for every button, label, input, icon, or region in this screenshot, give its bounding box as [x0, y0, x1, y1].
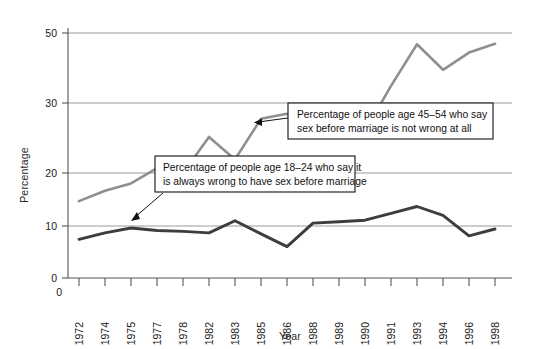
x-origin-label: 0	[56, 286, 62, 298]
x-tick-label-1990: 1990	[359, 322, 371, 346]
annotation-45-54-line1: Percentage of people age 45–54 who say	[297, 109, 488, 120]
annotation-45-54: Percentage of people age 45–54 who say s…	[254, 103, 493, 139]
y-tick-label-20: 20	[45, 167, 57, 179]
x-tick-label-1977: 1977	[151, 322, 163, 346]
x-tick-label-1974: 1974	[99, 322, 111, 346]
x-tick-label-1994: 1994	[437, 322, 449, 346]
x-tick-label-1978: 1978	[177, 322, 189, 346]
x-tick-label-1975: 1975	[125, 322, 137, 346]
y-tick-label-10: 10	[45, 220, 57, 232]
x-tick-label-1989: 1989	[333, 322, 345, 346]
y-tick-label-0: 0	[51, 272, 57, 284]
chart-figure: 50 30 20 10 0 0 Percentage	[0, 0, 534, 349]
x-tick-label-1991: 1991	[385, 322, 397, 346]
x-tick-label-1972: 1972	[73, 322, 85, 346]
x-axis-title: Year	[279, 330, 301, 342]
x-tick-label-1982: 1982	[203, 322, 215, 346]
x-tick-label-1996: 1996	[463, 322, 475, 346]
y-axis-title: Percentage	[18, 147, 30, 203]
x-tick-label-1988: 1988	[307, 322, 319, 346]
y-tick-label-30: 30	[45, 97, 57, 109]
line-chart: 50 30 20 10 0 0 Percentage	[0, 0, 534, 349]
x-tick-label-1983: 1983	[229, 322, 241, 346]
x-tick-label-1985: 1985	[255, 322, 267, 346]
x-tick-label-1998: 1998	[489, 322, 501, 346]
x-tick-label-1993: 1993	[411, 322, 423, 346]
y-tick-label-50: 50	[45, 27, 57, 39]
annotation-45-54-line2: sex before marriage is not wrong at all	[297, 123, 472, 134]
annotation-18-24-line1: Percentage of people age 18–24 who say i…	[163, 162, 361, 173]
annotation-18-24-line2: is always wrong to have sex before marri…	[163, 176, 367, 187]
